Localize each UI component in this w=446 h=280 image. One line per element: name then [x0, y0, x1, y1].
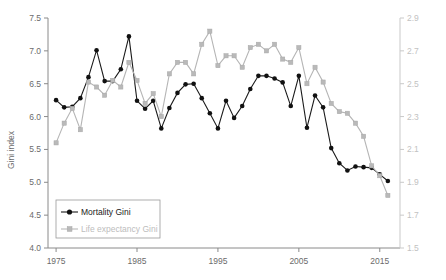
- y-tick-label: 6.0: [29, 112, 41, 122]
- data-point: [159, 126, 164, 131]
- chart-figure: Gini index 4.04.55.05.56.06.57.07.5 1.51…: [0, 0, 446, 280]
- data-point: [183, 60, 187, 64]
- chart-svg: Gini index 4.04.55.05.56.06.57.07.5 1.51…: [0, 0, 446, 280]
- data-point: [353, 121, 357, 125]
- data-point: [232, 116, 237, 121]
- data-point: [143, 106, 148, 111]
- data-point: [111, 78, 115, 82]
- data-point: [86, 75, 91, 80]
- data-point: [329, 101, 333, 105]
- data-point: [62, 105, 67, 110]
- data-point: [135, 99, 140, 104]
- data-point: [175, 91, 180, 96]
- data-point: [297, 45, 301, 49]
- x-tick-label: 1975: [47, 256, 66, 266]
- data-point: [86, 80, 90, 84]
- left-axis-ticks: 4.04.55.05.56.06.57.07.5: [29, 13, 48, 253]
- data-point: [103, 93, 107, 97]
- data-point: [248, 87, 253, 92]
- data-point: [280, 80, 285, 85]
- data-point: [281, 57, 285, 61]
- y-tick-label: 7.0: [29, 46, 41, 56]
- data-point: [224, 99, 229, 104]
- legend-marker-icon: [67, 209, 72, 214]
- data-point: [264, 74, 269, 79]
- data-point: [216, 64, 220, 68]
- y2-tick-label: 2.7: [407, 46, 419, 56]
- data-point: [119, 85, 123, 89]
- chart-legend: Mortality GiniLife expectancy Gini: [56, 200, 160, 238]
- data-point: [143, 101, 147, 105]
- data-point: [386, 179, 391, 184]
- x-tick-label: 1995: [208, 256, 227, 266]
- data-point: [199, 96, 204, 101]
- data-point: [102, 79, 107, 84]
- y-tick-label: 6.5: [29, 79, 41, 89]
- data-point: [54, 141, 58, 145]
- data-point: [248, 45, 252, 49]
- data-point: [337, 110, 341, 114]
- data-point: [208, 29, 212, 33]
- data-point: [305, 125, 310, 130]
- data-point: [353, 164, 358, 169]
- legend-marker-icon: [67, 227, 72, 232]
- data-point: [135, 78, 139, 82]
- data-point: [288, 104, 293, 109]
- data-point: [264, 49, 268, 53]
- y2-tick-label: 2.3: [407, 112, 419, 122]
- series-mortality-gini: [54, 34, 390, 183]
- x-tick-label: 2005: [289, 256, 308, 266]
- data-point: [175, 60, 179, 64]
- data-point: [167, 72, 171, 76]
- data-point: [272, 42, 276, 46]
- bottom-axis-ticks: 19751985199520052015: [47, 248, 390, 266]
- right-axis-ticks: 1.51.71.92.12.32.52.72.9: [400, 13, 419, 253]
- y2-tick-label: 1.7: [407, 210, 419, 220]
- data-point: [200, 42, 204, 46]
- data-point: [224, 54, 228, 58]
- y-tick-label: 5.0: [29, 177, 41, 187]
- data-point: [272, 76, 277, 81]
- data-point: [313, 65, 317, 69]
- data-point: [78, 128, 82, 132]
- y-tick-label: 4.0: [29, 243, 41, 253]
- data-point: [183, 82, 188, 87]
- data-point: [321, 105, 326, 110]
- data-point: [151, 91, 155, 95]
- data-point: [329, 146, 334, 151]
- y-tick-label: 4.5: [29, 210, 41, 220]
- data-point: [297, 74, 302, 79]
- data-point: [345, 168, 350, 173]
- data-point: [305, 82, 309, 86]
- y2-tick-label: 2.1: [407, 144, 419, 154]
- data-point: [386, 193, 390, 197]
- data-point: [70, 106, 74, 110]
- data-point: [208, 111, 213, 116]
- data-point: [337, 161, 342, 166]
- data-point: [62, 121, 66, 125]
- y2-tick-label: 1.9: [407, 177, 419, 187]
- y-tick-label: 7.5: [29, 13, 41, 23]
- data-point: [78, 96, 83, 101]
- data-point: [119, 67, 124, 72]
- data-point: [345, 111, 349, 115]
- data-point: [313, 93, 318, 98]
- data-point: [321, 80, 325, 84]
- series-line: [56, 36, 388, 181]
- data-point: [127, 34, 132, 39]
- data-point: [216, 126, 221, 131]
- y2-tick-label: 2.5: [407, 79, 419, 89]
- data-point: [370, 164, 374, 168]
- y2-tick-label: 1.5: [407, 243, 419, 253]
- data-point: [256, 42, 260, 46]
- data-point: [289, 60, 293, 64]
- data-point: [94, 48, 99, 53]
- legend-label: Mortality Gini: [81, 207, 131, 217]
- data-point: [361, 134, 365, 138]
- data-point: [54, 98, 59, 103]
- data-point: [127, 60, 131, 64]
- x-tick-label: 1985: [128, 256, 147, 266]
- y-tick-label: 5.5: [29, 144, 41, 154]
- y-axis-title: Gini index: [6, 130, 16, 169]
- legend-label: Life expectancy Gini: [81, 224, 158, 234]
